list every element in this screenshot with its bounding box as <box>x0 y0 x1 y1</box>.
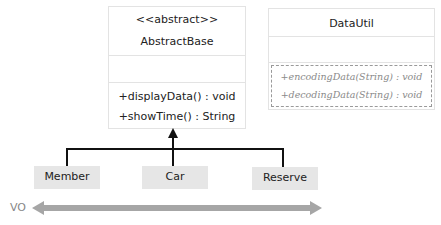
data-util-class: DataUtil +encodingData(String) : void +d… <box>268 8 435 110</box>
method-decoding-data: +decodingData(String) : void <box>272 89 431 100</box>
util-class-name: DataUtil <box>269 17 434 30</box>
static-methods-group: +encodingData(String) : void +decodingDa… <box>271 65 432 107</box>
attributes-divider <box>109 55 245 56</box>
util-attributes-divider <box>269 36 434 37</box>
vo-label: VO <box>10 201 26 214</box>
method-display-data: +displayData() : void <box>109 90 245 103</box>
abstract-stereotype: <<abstract>> <box>109 13 245 26</box>
util-methods-divider <box>269 62 434 63</box>
reserve-connector <box>282 148 284 167</box>
car-connector <box>172 136 174 166</box>
subclass-member: Member <box>34 166 100 189</box>
method-encoding-data: +encodingData(String) : void <box>272 71 431 82</box>
method-show-time: +showTime() : String <box>109 110 245 123</box>
subclass-car: Car <box>142 166 208 189</box>
abstract-base-class: <<abstract>> AbstractBase +displayData()… <box>108 6 246 129</box>
subclass-reserve: Reserve <box>252 167 318 190</box>
member-connector <box>66 148 68 166</box>
abstract-class-name: AbstractBase <box>109 35 245 48</box>
methods-divider <box>109 82 245 83</box>
inheritance-arrowhead-icon <box>167 128 179 138</box>
inheritance-horizontal-line <box>67 148 284 150</box>
vo-double-arrow-icon <box>32 200 322 216</box>
